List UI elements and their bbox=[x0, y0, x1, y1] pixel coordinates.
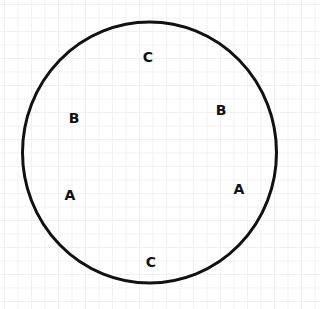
label-left-b: B bbox=[69, 111, 80, 125]
label-top-c: C bbox=[143, 50, 153, 64]
label-right-b: B bbox=[216, 103, 227, 117]
label-right-a: A bbox=[234, 182, 245, 196]
label-left-a: A bbox=[65, 188, 76, 202]
label-bottom-c: C bbox=[146, 255, 156, 269]
